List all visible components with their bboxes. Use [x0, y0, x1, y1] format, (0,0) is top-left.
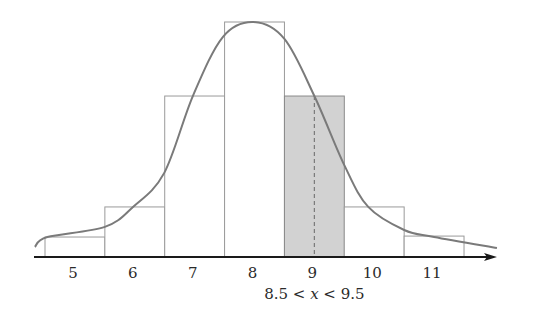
x-tick-label-11: 11	[423, 264, 442, 282]
bar-11	[404, 236, 464, 257]
x-tick-label-5: 5	[68, 264, 78, 282]
histogram-chart: 567891011 8.5 < x < 9.5	[0, 0, 543, 315]
bar-8	[225, 22, 285, 257]
bar-7	[165, 96, 225, 257]
x-tick-label-6: 6	[128, 264, 138, 282]
bars-group	[45, 22, 464, 257]
interval-annotation: 8.5 < x < 9.5	[264, 285, 364, 303]
x-tick-label-10: 10	[363, 264, 382, 282]
x-tick-label-8: 8	[248, 264, 258, 282]
x-tick-label-7: 7	[188, 264, 198, 282]
bar-5	[45, 237, 105, 257]
bar-6	[105, 207, 165, 257]
annotation-left: 8.5 <	[264, 285, 310, 303]
annotation-right: < 9.5	[319, 285, 365, 303]
x-tick-label-9: 9	[308, 264, 318, 282]
x-tick-labels: 567891011	[68, 264, 441, 282]
bar-10	[344, 207, 404, 257]
